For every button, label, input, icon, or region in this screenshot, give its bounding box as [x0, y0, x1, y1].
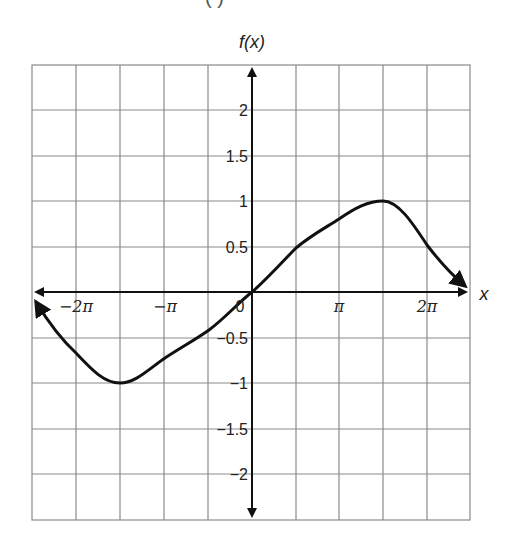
function-graph: f(x) x −2π −π 0 π 2π 2 1.5 1 0.5 −0.5 −1… [0, 0, 510, 554]
y-tick-2: 2 [239, 102, 248, 119]
y-tick-neg-0-5: −0.5 [216, 330, 248, 347]
y-tick-neg-1-5: −1.5 [216, 421, 248, 438]
x-tick-neg2pi: −2π [59, 297, 94, 316]
x-axis-label: x [479, 284, 490, 304]
y-axis-label: f(x) [239, 32, 265, 52]
y-tick-neg-1: −1 [230, 375, 248, 392]
y-tick-0-5: 0.5 [226, 239, 248, 256]
y-tick-1: 1 [239, 193, 248, 210]
y-tick-1-5: 1.5 [226, 148, 248, 165]
x-tick-pi: π [333, 297, 345, 316]
x-tick-2pi: 2π [416, 297, 438, 316]
x-tick-negpi: −π [153, 297, 177, 316]
x-tick-zero: 0 [236, 298, 245, 315]
y-tick-neg-2: −2 [230, 466, 248, 483]
